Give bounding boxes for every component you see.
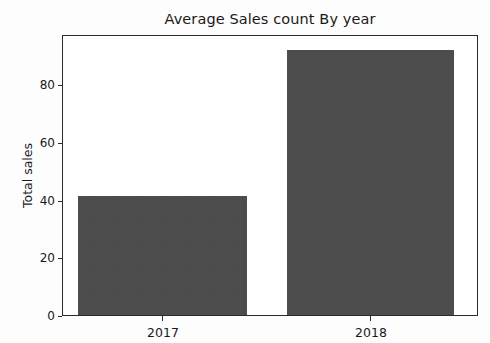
chart-figure: Average Sales count By year 0 20 40 60 8…: [0, 0, 490, 343]
ytick-label-60: 60: [40, 136, 55, 150]
xtick-mark-2017: [162, 316, 163, 321]
ytick-mark-0: [58, 316, 63, 317]
bar-2017: [78, 196, 247, 315]
plot-area: [62, 35, 478, 316]
xtick-label-2017: 2017: [147, 325, 179, 340]
bar-2018: [287, 50, 454, 315]
xtick-label-2018: 2018: [355, 325, 387, 340]
ytick-label-0: 0: [47, 309, 55, 323]
ytick-mark-80: [58, 85, 63, 86]
ytick-mark-40: [58, 201, 63, 202]
ytick-mark-60: [58, 143, 63, 144]
ytick-label-20: 20: [40, 251, 55, 265]
chart-title: Average Sales count By year: [62, 11, 478, 27]
xtick-mark-2018: [370, 316, 371, 321]
ytick-mark-20: [58, 258, 63, 259]
ytick-label-40: 40: [40, 194, 55, 208]
ytick-label-80: 80: [40, 78, 55, 92]
y-axis-label: Total sales: [20, 35, 36, 316]
